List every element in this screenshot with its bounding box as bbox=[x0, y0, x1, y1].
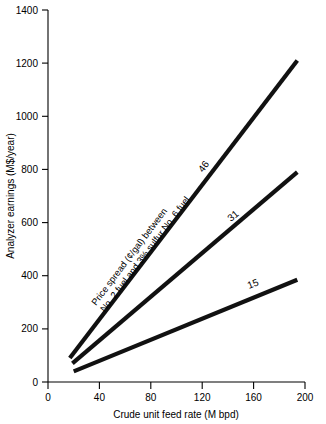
y-tick-label: 1200 bbox=[16, 58, 39, 69]
y-tick-label: 1000 bbox=[16, 111, 39, 122]
x-tick-label: 120 bbox=[194, 392, 211, 403]
analyzer-earnings-chart: 1400 1200 1000 800 600 400 200 0 0 40 80… bbox=[0, 0, 326, 424]
x-tick-label: 40 bbox=[94, 392, 106, 403]
y-tick-label: 600 bbox=[21, 217, 38, 228]
x-axis-title: Crude unit feed rate (M bpd) bbox=[113, 409, 239, 420]
chart-figure: 1400 1200 1000 800 600 400 200 0 0 40 80… bbox=[0, 0, 326, 424]
x-tick-label: 80 bbox=[145, 392, 157, 403]
y-tick-label: 0 bbox=[32, 377, 38, 388]
y-tick-label: 800 bbox=[21, 164, 38, 175]
y-tick-label: 400 bbox=[21, 270, 38, 281]
y-tick-label: 1400 bbox=[16, 5, 39, 16]
y-tick-label: 200 bbox=[21, 323, 38, 334]
x-tick-label: 200 bbox=[297, 392, 314, 403]
x-tick-label: 0 bbox=[45, 392, 51, 403]
x-tick-label: 160 bbox=[245, 392, 262, 403]
y-axis-title: Analyzer earnings (M$/year) bbox=[5, 133, 16, 259]
